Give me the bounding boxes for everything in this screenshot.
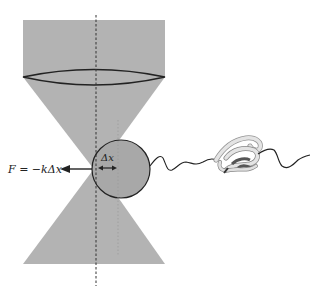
force-equation-label: F = −kΔx bbox=[7, 163, 63, 176]
optical-trap-diagram: F = −kΔx Δx bbox=[0, 0, 323, 300]
collimated-beam bbox=[23, 20, 165, 77]
tether-linker bbox=[150, 156, 216, 170]
tether-end bbox=[258, 149, 310, 167]
protein-ribbon bbox=[216, 138, 260, 173]
laser-beam bbox=[23, 20, 165, 264]
displacement-label: Δx bbox=[100, 152, 114, 163]
